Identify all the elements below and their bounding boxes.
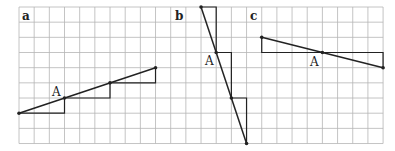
point-marker [154,66,158,70]
point-marker [321,51,325,55]
point-label-c: A [309,55,319,69]
panel-c: c A [250,9,385,69]
point-marker [381,66,385,70]
point-marker [260,36,264,40]
point-marker [230,96,234,100]
point-marker [199,5,203,9]
panel-label-c: c [250,9,257,23]
square-grid [19,7,383,144]
point-marker [17,111,21,115]
panel-label-b: b [175,9,183,23]
point-marker [214,51,218,55]
panel-a: a A [17,9,157,115]
sloped-line-segment [19,68,156,114]
sloped-line-segment [201,7,247,144]
point-marker [63,96,67,100]
gradient-step-diagram: a A b A c A [0,0,395,151]
panel-label-a: a [22,9,30,23]
point-label-a: A [51,85,61,99]
point-label-b: A [204,54,214,68]
point-marker [245,142,249,146]
point-marker [108,81,112,85]
